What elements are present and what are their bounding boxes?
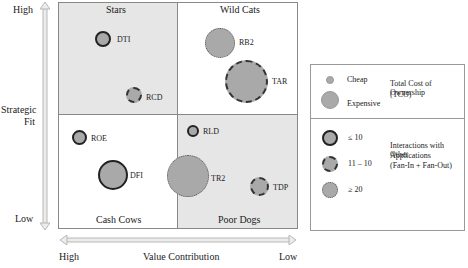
quadrant-title-wild-cats: Wild Cats [220,4,260,15]
y-axis-arrow-icon [40,2,50,230]
horizontal-divider [58,114,298,115]
bubble-dti[interactable] [95,31,111,47]
legend-cheap-label: Cheap [347,75,367,84]
legend-high-interactions-icon [322,182,338,198]
legend-mid-interactions-icon [322,156,338,172]
bubble-label-dti: DTI [117,35,130,44]
bubble-label-roe: ROE [91,134,107,143]
bubble-label-tar: TAR [272,77,287,86]
legend-divider [311,118,464,119]
bubble-rcd[interactable] [126,87,142,103]
y-axis-title-line1: Strategic [1,104,37,115]
quadrant-title-stars: Stars [106,4,126,15]
legend-expensive-label: Expensive [347,99,380,108]
bubble-label-rb2: RB2 [239,38,254,47]
quadrant-title-cash-cows: Cash Cows [96,214,141,225]
bubble-rb2[interactable] [205,28,235,58]
bubble-tdp[interactable] [250,177,269,196]
bubble-label-rld: RLD [203,127,219,136]
legend-cheap-bubble-icon [326,76,334,84]
x-axis-high-label: High [59,251,79,262]
legend-low-interactions-icon [322,130,338,146]
bubble-rld[interactable] [187,125,199,137]
y-axis-title-line2: Fit [24,116,35,127]
y-axis-low-label: Low [15,213,33,224]
y-axis-high-label: High [13,4,33,15]
bubble-dfi[interactable] [98,160,128,190]
legend-interactions-title-line3: (Fan-In + Fan-Out) [390,161,452,170]
legend-high-interactions-label: ≥ 20 [348,185,362,194]
bubble-label-tdp: TDP [273,183,288,192]
legend-interactions-title-line2: Applications [390,151,431,160]
bubble-roe[interactable] [72,130,87,145]
legend-tco-title-line2: (TCO) [390,90,411,99]
legend-box: Cheap Expensive Total Cost of Ownership … [310,64,465,231]
bubble-label-rcd: RCD [146,93,162,102]
legend-expensive-bubble-icon [321,91,339,109]
x-axis-low-label: Low [279,251,297,262]
bubble-tr2[interactable] [167,155,209,197]
bubble-label-dfi: DFI [130,171,143,180]
x-axis-title: Value Contribution [143,251,219,262]
bubble-tar[interactable] [225,60,268,103]
legend-mid-interactions-label: 11 – 10 [348,159,372,168]
x-axis-arrow-icon [60,235,296,245]
vertical-divider [177,2,178,229]
bubble-label-tr2: TR2 [211,174,225,183]
legend-low-interactions-label: ≤ 10 [348,133,362,142]
quadrant-title-poor-dogs: Poor Dogs [218,214,261,225]
